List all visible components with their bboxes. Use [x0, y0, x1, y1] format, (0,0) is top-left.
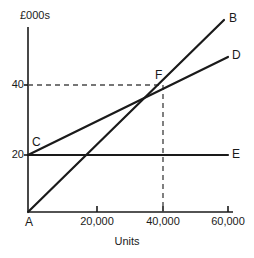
x-tick-label-40000: 40,000 [135, 216, 191, 227]
point-label-e: E [232, 148, 240, 160]
x-axis-title: Units [92, 236, 162, 247]
axes [28, 27, 233, 212]
break-even-chart: £000s 40 20 20,000 40,000 60,000 Units A… [0, 0, 254, 258]
point-label-d: D [232, 49, 241, 61]
data-lines [28, 20, 228, 212]
y-axis-title: £000s [20, 10, 50, 21]
point-label-f: F [155, 69, 162, 81]
x-tick-label-60000: 60,000 [200, 216, 254, 227]
series-line-ab [28, 20, 224, 212]
point-label-a: A [25, 216, 33, 228]
x-tick-label-20000: 20,000 [69, 216, 125, 227]
point-label-c: C [32, 136, 41, 148]
y-tick-label-40: 40 [4, 79, 24, 90]
point-label-b: B [229, 12, 237, 24]
y-tick-label-20: 20 [4, 149, 24, 160]
series-line-cd [28, 57, 228, 155]
